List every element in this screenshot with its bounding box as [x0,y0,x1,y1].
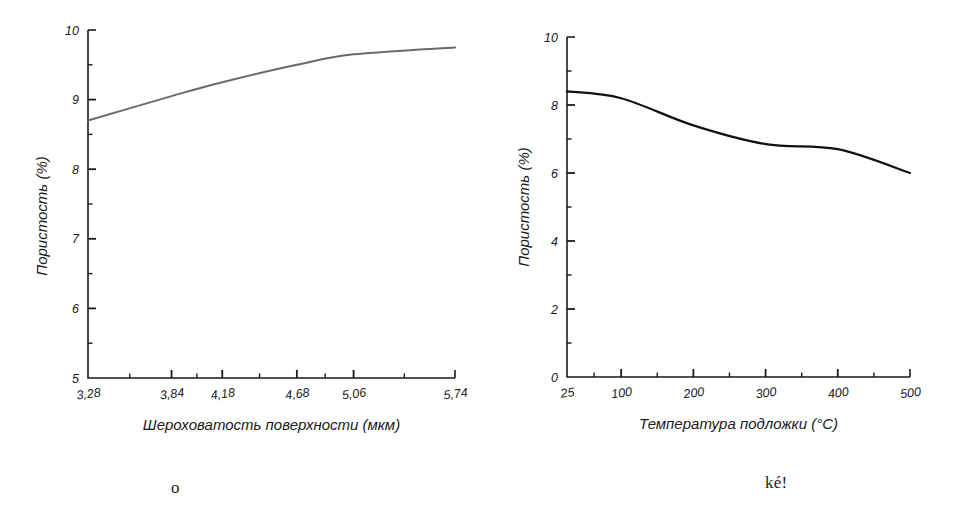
x-tick-label: 25 [559,385,576,401]
y-tick-label: 9 [72,93,79,107]
x-tick-label: 3,28 [76,386,102,403]
x-axis-title: Температура подложки (°C) [639,415,838,432]
figure-page: 56789103,283,844,184,685,065,74Шероховат… [0,0,974,532]
y-tick-label: 5 [72,372,79,386]
x-tick-label: 300 [755,385,777,401]
chart-canvas-right: 024681025100200300400500Температура подл… [487,0,974,470]
x-tick-label: 4,68 [284,386,310,403]
axis-spine [88,30,455,378]
x-tick-label: 200 [682,385,705,402]
x-tick-label: 500 [899,385,921,401]
data-series-line [88,47,455,120]
y-tick-label: 7 [72,232,80,246]
y-tick-label: 0 [551,371,558,385]
axis-spine [567,37,910,377]
y-tick-label: 8 [72,163,79,177]
y-tick-label: 6 [551,167,558,181]
x-tick-label: 4,18 [210,386,236,403]
y-tick-label: 6 [72,302,79,316]
caption-left: o [171,478,180,498]
data-series-line [567,91,910,173]
x-axis-title: Шероховатость поверхности (мкм) [143,416,400,433]
x-tick-label: 5,06 [341,386,367,403]
caption-right: ké! [765,473,787,493]
chart-porosity-vs-substrate-temperature: 024681025100200300400500Температура подл… [487,0,974,532]
x-tick-label: 5,74 [443,386,469,403]
y-axis-title: Пористость (%) [33,156,50,275]
x-tick-label: 100 [610,385,632,401]
y-tick-label: 4 [551,235,558,249]
y-tick-label: 2 [550,303,558,317]
chart-porosity-vs-roughness: 56789103,283,844,184,685,065,74Шероховат… [0,0,487,532]
y-tick-label: 10 [544,31,558,45]
x-tick-label: 400 [827,385,849,401]
chart-canvas-left: 56789103,283,844,184,685,065,74Шероховат… [0,0,487,470]
x-tick-label: 3,84 [159,386,185,403]
y-axis-title: Пористость (%) [515,147,532,266]
y-tick-label: 8 [551,99,558,113]
y-tick-label: 10 [65,24,79,38]
